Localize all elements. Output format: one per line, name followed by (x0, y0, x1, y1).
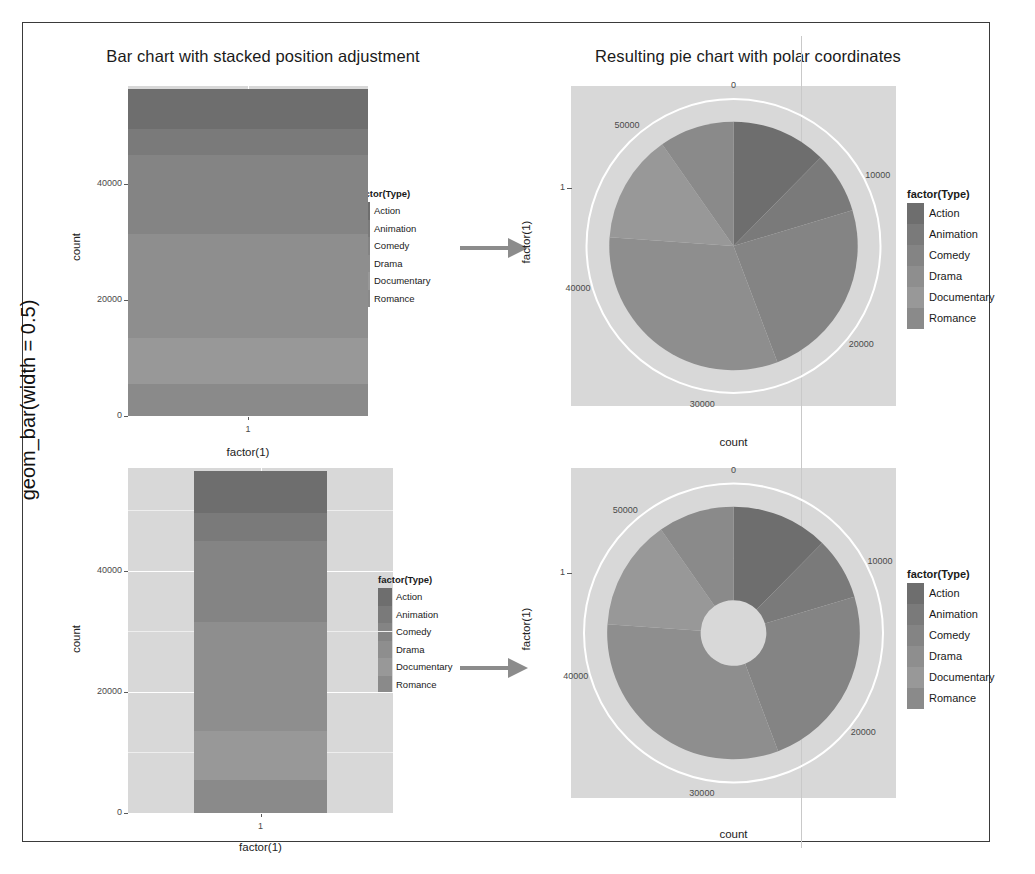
radial-tick-label: 40000 (566, 283, 591, 293)
chart-bar-top: count factor(1) 020000400001 (53, 81, 393, 441)
x-tick-label: 1 (233, 424, 263, 434)
stacked-bar (194, 468, 327, 813)
legend-swatch-action (378, 588, 392, 606)
radial-tick-label: 40000 (563, 671, 588, 681)
bar-segment-comedy (194, 541, 327, 623)
legend-item-comedy[interactable]: Comedy (929, 625, 994, 646)
stacked-bar (128, 86, 368, 416)
legend-swatch-drama (907, 646, 924, 667)
legend-top-right: factor(Type) ActionAnimationComedyDramaD… (907, 188, 994, 329)
radial-tick-label: 0 (731, 465, 736, 475)
legend-item-action[interactable]: Action (374, 202, 431, 220)
legend-swatch-animation (907, 224, 924, 245)
pie-slice-drama (607, 624, 778, 759)
legend-item-documentary[interactable]: Documentary (929, 287, 994, 308)
legend-bottom-right: factor(Type) ActionAnimationComedyDramaD… (907, 568, 994, 709)
legend-item-animation[interactable]: Animation (929, 224, 994, 245)
y-tick-label: 40000 (84, 178, 122, 188)
legend-item-comedy[interactable]: Comedy (396, 623, 453, 641)
bar-segment-action (194, 471, 327, 513)
panel-title-right: Resulting pie chart with polar coordinat… (563, 45, 933, 67)
y-tick-label: 20000 (84, 686, 122, 696)
bar-segment-action (128, 89, 368, 130)
legend-bottom-left: factor(Type) ActionAnimationComedyDramaD… (378, 574, 453, 693)
legend-item-documentary[interactable]: Documentary (929, 667, 994, 688)
legend-item-animation[interactable]: Animation (929, 604, 994, 625)
radial-tick-label: 30000 (690, 399, 715, 409)
legend-swatch-comedy (907, 245, 924, 266)
legend-item-documentary[interactable]: Documentary (396, 658, 453, 676)
legend-item-romance[interactable]: Romance (929, 688, 994, 709)
bar-segment-romance (128, 384, 368, 416)
legend-item-comedy[interactable]: Comedy (374, 237, 431, 255)
x-axis-title: factor(1) (128, 446, 368, 458)
y-axis-title: count (70, 609, 82, 669)
bar-segment-drama (128, 234, 368, 338)
radial-tick-label: 0 (731, 80, 736, 90)
legend-items: ActionAnimationComedyDramaDocumentaryRom… (396, 588, 453, 693)
legend-swatch-drama (907, 266, 924, 287)
legend-swatch-animation (907, 604, 924, 625)
legend-color-key (907, 203, 924, 329)
legend-item-comedy[interactable]: Comedy (929, 245, 994, 266)
legend-swatch-drama (378, 641, 392, 659)
legend-item-drama[interactable]: Drama (929, 646, 994, 667)
chart-donut-bottom: factor(1) count 010000200003000040000500… (501, 463, 901, 843)
radial-tick-label: 20000 (849, 339, 874, 349)
legend-swatch-documentary (907, 287, 924, 308)
bar-segment-romance (194, 780, 327, 813)
legend-title: factor(Type) (907, 568, 994, 580)
legend-swatch-documentary (907, 667, 924, 688)
chart-bar-bottom: count factor(1) 020000400001 (53, 463, 413, 843)
polar-plot (501, 463, 901, 843)
legend-item-romance[interactable]: Romance (374, 290, 431, 308)
radial-tick-label: 50000 (614, 120, 639, 130)
legend-swatch-romance (907, 688, 924, 709)
legend-swatch-animation (378, 606, 392, 624)
legend-items: ActionAnimationComedyDramaDocumentaryRom… (929, 203, 994, 329)
legend-item-drama[interactable]: Drama (929, 266, 994, 287)
row-label-geom-bar-width: geom_bar(width = 0.5) (17, 235, 53, 565)
bar-segment-documentary (128, 338, 368, 384)
legend-swatch-action (907, 203, 924, 224)
panel-title-left: Bar chart with stacked position adjustme… (93, 45, 433, 67)
legend-color-key (907, 583, 924, 709)
bar-segment-drama (194, 622, 327, 731)
legend-item-action[interactable]: Action (396, 588, 453, 606)
legend-swatch-romance (907, 308, 924, 329)
bar-segment-comedy (128, 155, 368, 233)
radial-tick-label: 10000 (865, 170, 890, 180)
gridline-major-y (128, 416, 368, 417)
legend-item-romance[interactable]: Romance (929, 308, 994, 329)
radial-tick-label: 50000 (613, 505, 638, 515)
legend-swatch-romance (378, 676, 392, 694)
x-axis-title: factor(1) (128, 841, 393, 853)
gridline-major-y (128, 813, 393, 814)
y-tick-label: 0 (84, 807, 122, 817)
legend-item-action[interactable]: Action (929, 203, 994, 224)
y-tick-label: 40000 (84, 565, 122, 575)
bar-segment-animation (128, 129, 368, 155)
legend-item-romance[interactable]: Romance (396, 676, 453, 694)
legend-item-drama[interactable]: Drama (374, 255, 431, 273)
legend-item-animation[interactable]: Animation (374, 220, 431, 238)
legend-items: ActionAnimationComedyDramaDocumentaryRom… (929, 583, 994, 709)
bar-segment-documentary (194, 731, 327, 779)
figure-frame: geom_bar(width = 0.5) Bar chart with sta… (22, 22, 990, 842)
y-tick-label: 20000 (84, 294, 122, 304)
radial-tick-label: 10000 (868, 556, 893, 566)
legend-title: factor(Type) (378, 574, 453, 585)
y-axis-title: count (70, 217, 82, 277)
legend-item-documentary[interactable]: Documentary (374, 272, 431, 290)
radial-tick-label: 30000 (689, 788, 714, 798)
legend-items: ActionAnimationComedyDramaDocumentaryRom… (374, 202, 431, 307)
bar-segment-animation (194, 513, 327, 540)
legend-swatch-documentary (378, 658, 392, 676)
legend-color-key (378, 588, 392, 693)
legend-item-drama[interactable]: Drama (396, 641, 453, 659)
legend-swatch-action (907, 583, 924, 604)
legend-item-action[interactable]: Action (929, 583, 994, 604)
legend-item-animation[interactable]: Animation (396, 606, 453, 624)
legend-title: factor(Type) (907, 188, 994, 200)
legend-swatch-comedy (907, 625, 924, 646)
